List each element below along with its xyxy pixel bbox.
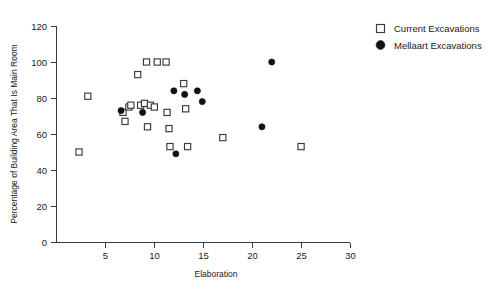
x-tick-label: 10 bbox=[149, 250, 160, 261]
data-point-current bbox=[185, 144, 191, 150]
y-tick-label: 20 bbox=[36, 201, 47, 212]
data-point-current bbox=[122, 118, 128, 124]
y-tick-label: 120 bbox=[31, 21, 47, 32]
data-point-current bbox=[167, 144, 173, 150]
data-point-mellaart bbox=[139, 109, 145, 115]
legend-label-mellaart-excavations: Mellaart Excavations bbox=[394, 40, 482, 51]
data-point-current bbox=[143, 59, 149, 65]
x-axis-ticks bbox=[106, 243, 351, 249]
data-point-current bbox=[164, 109, 170, 115]
chart-canvas: 020406080100120 51015202530 Elaboration … bbox=[0, 0, 490, 292]
data-point-mellaart bbox=[118, 108, 124, 114]
data-point-current bbox=[163, 59, 169, 65]
data-point-current bbox=[151, 104, 157, 110]
y-axis-tick-labels: 020406080100120 bbox=[31, 21, 47, 248]
legend-marker-filled-circle bbox=[376, 41, 385, 50]
y-axis-title: Percentage of Building Area That Is Main… bbox=[9, 44, 19, 223]
data-point-current bbox=[135, 72, 141, 78]
y-tick-label: 0 bbox=[42, 237, 47, 248]
data-point-current bbox=[154, 59, 160, 65]
x-axis-tick-labels: 51015202530 bbox=[103, 250, 356, 261]
data-point-current bbox=[181, 81, 187, 87]
legend: Current Excavations Mellaart Excavations bbox=[376, 23, 482, 51]
data-point-mellaart bbox=[171, 88, 177, 94]
legend-marker-open-square bbox=[377, 25, 385, 33]
data-point-current bbox=[76, 149, 82, 155]
x-tick-label: 5 bbox=[103, 250, 108, 261]
y-tick-label: 80 bbox=[36, 93, 47, 104]
series-current-excavations bbox=[76, 59, 304, 155]
data-point-current bbox=[144, 124, 150, 130]
x-tick-label: 30 bbox=[345, 250, 356, 261]
x-axis-title: Elaboration bbox=[194, 269, 237, 279]
data-point-mellaart bbox=[269, 59, 275, 65]
scatter-plot-figure: 020406080100120 51015202530 Elaboration … bbox=[0, 0, 490, 292]
data-point-current bbox=[220, 135, 226, 141]
x-tick-label: 20 bbox=[247, 250, 258, 261]
data-point-current bbox=[85, 93, 91, 99]
data-point-mellaart bbox=[199, 99, 205, 105]
data-point-current bbox=[298, 144, 304, 150]
data-point-current bbox=[128, 102, 134, 108]
legend-label-current-excavations: Current Excavations bbox=[394, 23, 480, 34]
y-axis-ticks bbox=[51, 27, 57, 243]
data-point-mellaart bbox=[194, 88, 200, 94]
data-point-current bbox=[141, 100, 147, 106]
y-tick-label: 40 bbox=[36, 165, 47, 176]
y-tick-label: 100 bbox=[31, 57, 47, 68]
data-point-mellaart bbox=[173, 151, 179, 157]
y-tick-label: 60 bbox=[36, 129, 47, 140]
data-point-current bbox=[166, 126, 172, 132]
x-tick-label: 15 bbox=[198, 250, 209, 261]
data-point-mellaart bbox=[182, 91, 188, 97]
x-tick-label: 25 bbox=[296, 250, 307, 261]
data-point-current bbox=[183, 106, 189, 112]
data-point-mellaart bbox=[259, 124, 265, 130]
